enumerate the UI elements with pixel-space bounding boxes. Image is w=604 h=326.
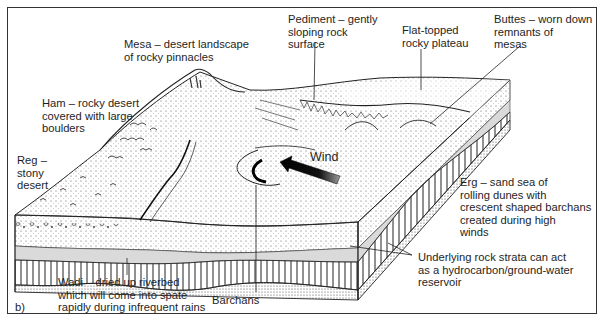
label-barchans: Barchans [212, 294, 259, 307]
label-mesa: Mesa – desert landscape of rocky pinnacl… [124, 38, 249, 63]
panel-label: b) [15, 301, 25, 314]
label-wind: Wind [310, 151, 338, 164]
label-ham: Ham – rocky desert covered with large bo… [42, 97, 139, 135]
label-reg: Reg – stony desert [17, 154, 48, 192]
label-wadi: Wadi – dried up riverbed which will come… [58, 276, 205, 314]
label-strata: Underlying rock strata can act as a hydr… [418, 251, 573, 289]
label-buttes: Buttes – worn down remnants of mesas [494, 13, 592, 51]
label-pediment: Pediment – gently sloping rock surface [288, 13, 378, 51]
label-plateau: Flat-topped rocky plateau [402, 24, 469, 49]
label-erg: Erg – sand sea of rolling dunes with cre… [460, 176, 591, 239]
